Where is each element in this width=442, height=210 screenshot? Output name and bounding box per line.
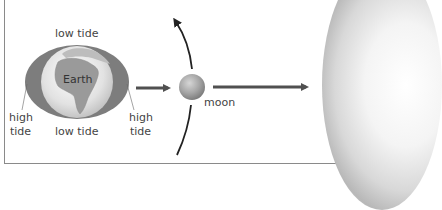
- moon-label: moon: [204, 97, 235, 109]
- high-tide-right-leader: [127, 84, 134, 110]
- moon-orbit-lower: [177, 105, 191, 155]
- high-tide-left-leader: [22, 84, 27, 110]
- high-tide-left-label-2: tide: [10, 126, 31, 138]
- moon-orbit-upper: [176, 22, 192, 69]
- high-tide-left-label-1: high: [9, 112, 33, 124]
- low-tide-bottom-label: low tide: [55, 126, 98, 138]
- high-tide-right-label-1: high: [129, 112, 153, 124]
- low-tide-top-label: low tide: [55, 28, 98, 40]
- high-tide-right-label-2: tide: [130, 126, 151, 138]
- earth-label: Earth: [63, 74, 93, 86]
- moon-body: [179, 74, 205, 100]
